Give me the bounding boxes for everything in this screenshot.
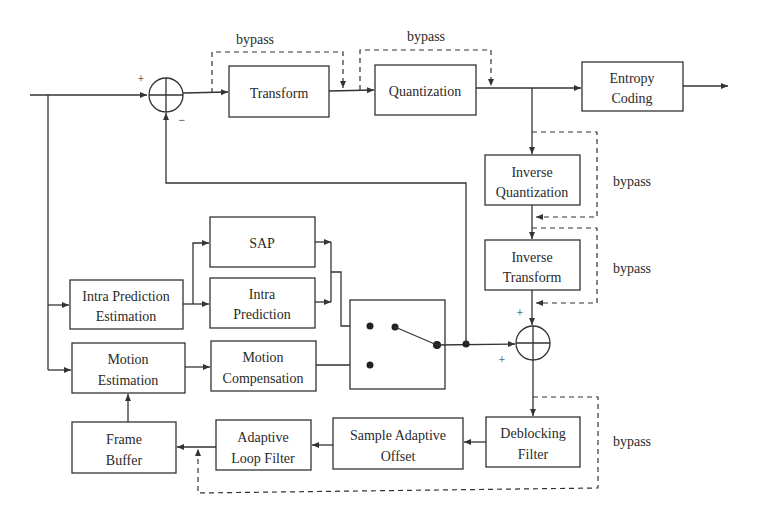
svg-text:Deblocking: Deblocking <box>500 426 565 441</box>
svg-text:Entropy: Entropy <box>609 71 654 86</box>
deblocking-filter-block: Deblocking Filter <box>486 417 580 467</box>
sap-block: SAP <box>210 217 315 267</box>
transform-block: Transform <box>229 66 329 117</box>
residual-minus-sign: − <box>179 113 186 127</box>
svg-text:Motion: Motion <box>107 352 148 367</box>
svg-text:Estimation: Estimation <box>96 309 157 324</box>
svg-text:Estimation: Estimation <box>98 373 159 388</box>
motion-estimation-block: Motion Estimation <box>72 343 185 393</box>
quantization-bypass-label: bypass <box>407 29 445 44</box>
svg-text:Coding: Coding <box>611 91 652 106</box>
svg-text:Adaptive: Adaptive <box>237 430 288 445</box>
adaptive-loop-filter-block: Adaptive Loop Filter <box>216 420 311 470</box>
reconstruction-plus-left: + <box>499 353 506 367</box>
svg-text:Buffer: Buffer <box>106 453 143 468</box>
intra-prediction-estimation-block: Intra Prediction Estimation <box>70 280 183 329</box>
inverse-transform-bypass-label: bypass <box>613 261 651 276</box>
inverse-quantization-bypass-label: bypass <box>613 174 651 189</box>
svg-text:Quantization: Quantization <box>496 185 568 200</box>
mode-switch <box>350 300 445 389</box>
svg-text:Intra Prediction: Intra Prediction <box>82 289 169 304</box>
to-quantization-arrow <box>329 90 374 91</box>
encoder-block-diagram: + − Transform bypass Quantization bypass… <box>0 0 762 523</box>
residual-summer <box>149 78 183 112</box>
svg-text:Frame: Frame <box>106 432 142 447</box>
reconstruction-summer <box>516 326 550 360</box>
prediction-to-summer-arrow <box>437 344 515 345</box>
svg-text:Intra: Intra <box>249 287 276 302</box>
svg-text:Motion: Motion <box>242 350 283 365</box>
loop-filter-bypass-label: bypass <box>613 434 651 449</box>
sample-adaptive-offset-block: Sample Adaptive Offset <box>333 418 463 469</box>
svg-text:Loop Filter: Loop Filter <box>231 451 295 466</box>
residual-plus-sign: + <box>138 72 145 86</box>
svg-text:Sample Adaptive: Sample Adaptive <box>350 428 446 443</box>
reconstruction-plus-top: + <box>517 306 524 320</box>
inverse-transform-block: Inverse Transform <box>485 240 580 290</box>
transform-bypass-label: bypass <box>236 32 274 47</box>
svg-text:Transform: Transform <box>503 270 562 285</box>
motion-compensation-block: Motion Compensation <box>211 341 316 391</box>
svg-text:Quantization: Quantization <box>389 84 461 99</box>
svg-text:Inverse: Inverse <box>511 165 552 180</box>
svg-text:Transform: Transform <box>250 86 309 101</box>
inverse-quantization-block: Inverse Quantization <box>485 155 580 205</box>
to-sap-arrow <box>193 243 209 304</box>
svg-text:SAP: SAP <box>249 236 275 251</box>
svg-text:Compensation: Compensation <box>223 371 304 386</box>
intra-prediction-block: Intra Prediction <box>210 278 315 328</box>
frame-buffer-block: Frame Buffer <box>72 422 176 473</box>
entropy-coding-block: Entropy Coding <box>582 62 683 111</box>
quantization-block: Quantization <box>375 65 476 115</box>
svg-text:Offset: Offset <box>381 449 416 464</box>
svg-text:Filter: Filter <box>518 447 549 462</box>
svg-text:Inverse: Inverse <box>511 250 552 265</box>
to-transform-arrow <box>183 92 228 93</box>
svg-text:Prediction: Prediction <box>233 307 291 322</box>
